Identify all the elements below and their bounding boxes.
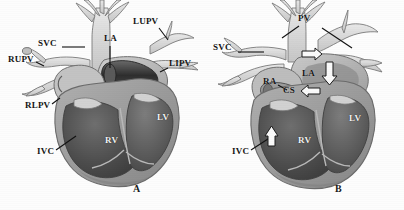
- label-rlpv-a: RLPV: [25, 101, 50, 110]
- label-lipv-a: LIPV: [169, 59, 191, 68]
- label-lv-a: LV: [157, 113, 169, 122]
- figure-root: SVC LA LUPV RUPV LIPV RLPV IVC RV LV A: [0, 0, 404, 210]
- panel-letter-a: A: [133, 183, 140, 194]
- label-rv-b: RV: [298, 136, 311, 145]
- label-cs-b: CS: [283, 86, 295, 95]
- label-rupv-a: RUPV: [8, 55, 34, 64]
- label-ivc-b: IVC: [232, 147, 249, 156]
- panel-letter-b: B: [335, 183, 342, 194]
- label-rv-a: RV: [105, 136, 118, 145]
- label-la-a: LA: [104, 34, 117, 43]
- label-pv-b: PV: [298, 14, 310, 23]
- label-ra-b: RA: [263, 77, 276, 86]
- label-la-b: LA: [302, 69, 315, 78]
- panel-b: PV SVC RA LA CS IVC RV LV B: [202, 0, 404, 210]
- label-lupv-a: LUPV: [133, 17, 158, 26]
- label-ivc-a: IVC: [37, 147, 54, 156]
- panel-a: SVC LA LUPV RUPV LIPV RLPV IVC RV LV A: [0, 0, 202, 210]
- panel-b-illustration: [202, 0, 404, 210]
- label-svc-a: SVC: [38, 39, 57, 48]
- label-lv-b: LV: [349, 114, 361, 123]
- label-svc-b: SVC: [213, 43, 232, 52]
